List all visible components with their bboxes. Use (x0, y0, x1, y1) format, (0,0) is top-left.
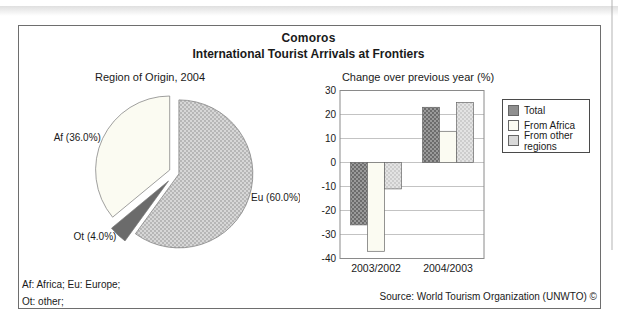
bar-from-africa-2004-2003 (440, 131, 457, 162)
legend-swatch-icon (508, 120, 519, 131)
legend-label: Total (524, 105, 545, 116)
bar-from-other-regions-2003-2002 (385, 163, 402, 189)
bar-chart-title: Change over previous year (%) (333, 71, 503, 83)
pie-slice-af (96, 96, 170, 217)
pie-label-ot: Ot (4.0%) (74, 231, 117, 242)
bar-from-other-regions-2004-2003 (457, 103, 474, 163)
x-category-label: 2003/2002 (351, 262, 401, 274)
scan-artifact-top (0, 6, 618, 16)
y-tick-label: -40 (322, 253, 337, 264)
legend-item-from-other-regions: From other regions (503, 133, 589, 148)
bar-from-africa-2003-2002 (368, 163, 385, 252)
bar-total-2004-2003 (423, 107, 440, 162)
y-tick-label: 20 (325, 109, 337, 120)
legend: TotalFrom AfricaFrom other regions (502, 99, 590, 153)
y-tick-label: 0 (330, 157, 336, 168)
y-tick-label: -10 (322, 181, 337, 192)
legend-swatch-icon (508, 105, 519, 116)
legend-label: From other regions (524, 130, 589, 152)
pie-label-af: Af (36.0%) (54, 132, 101, 143)
source-text: Source: World Tourism Organization (UNWT… (290, 291, 597, 302)
bar-total-2003-2002 (351, 163, 368, 225)
legend-swatch-icon (508, 135, 519, 146)
pie-chart: Eu (60.0%)Ot (4.0%)Af (36.0%) (40, 85, 300, 263)
scan-artifact-right (611, 0, 613, 250)
pie-label-eu: Eu (60.0%) (251, 192, 300, 203)
y-tick-label: -30 (322, 229, 337, 240)
bar-chart: 3020100-10-20-30-402003/20022004/2003 (314, 84, 500, 282)
footnote-other: Ot: other; (22, 296, 64, 307)
x-category-label: 2004/2003 (423, 262, 473, 274)
y-tick-label: -20 (322, 205, 337, 216)
y-tick-label: 10 (325, 133, 337, 144)
page-subtitle: International Tourist Arrivals at Fronti… (19, 47, 598, 61)
page-title: Comoros (19, 31, 598, 45)
legend-item-total: Total (503, 103, 589, 118)
pie-chart-title: Region of Origin, 2004 (60, 71, 240, 83)
footnote-regions: Af: Africa; Eu: Europe; (22, 279, 120, 290)
chart-image: Comoros International Tourist Arrivals a… (0, 0, 618, 333)
y-tick-label: 30 (325, 85, 337, 96)
